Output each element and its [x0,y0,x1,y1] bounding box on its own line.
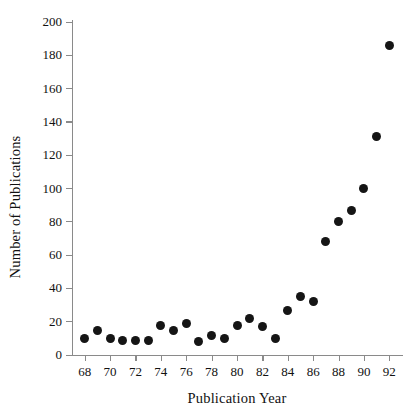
data-point [93,326,102,335]
x-tick-label: 68 [78,364,91,380]
data-point [296,292,305,301]
data-point [194,337,203,346]
y-tick-label: 0 [56,347,63,363]
y-tick-label: 100 [43,181,63,197]
data-point [258,322,267,331]
x-tick-label: 84 [281,364,294,380]
data-point [169,326,178,335]
x-tick-mark [135,355,136,361]
data-point [283,306,292,315]
x-tick-label: 76 [180,364,193,380]
x-tick-label: 72 [129,364,142,380]
data-point [334,217,343,226]
data-point [385,41,394,50]
x-tick-mark [389,355,390,361]
data-point-layer [72,22,402,355]
x-tick-mark [313,355,314,361]
data-point [372,132,381,141]
scatter-chart: Number of Publications 02040608010012014… [0,0,420,414]
x-tick-mark [85,355,86,361]
y-tick-label: 200 [43,14,63,30]
data-point [233,321,242,330]
x-tick-mark [237,355,238,361]
y-tick-label: 180 [43,47,63,63]
x-tick-mark [110,355,111,361]
data-point [106,334,115,343]
data-point [131,336,140,345]
data-point [347,206,356,215]
data-point [271,334,280,343]
y-axis-ticks: 020406080100120140160180200 [0,0,72,414]
x-tick-label: 92 [383,364,396,380]
x-tick-label: 70 [104,364,117,380]
data-point [80,334,89,343]
x-axis-ticks: 68707274767880828486889092 [72,355,402,385]
data-point [359,184,368,193]
plot-area: 68707274767880828486889092 [72,22,402,355]
y-tick-label: 120 [43,147,63,163]
data-point [321,237,330,246]
x-tick-mark [262,355,263,361]
data-point [144,336,153,345]
data-point [182,319,191,328]
x-tick-label: 74 [154,364,167,380]
x-tick-label: 90 [357,364,370,380]
y-tick-label: 80 [49,214,62,230]
x-tick-mark [339,355,340,361]
y-tick-label: 40 [49,280,62,296]
y-tick-label: 60 [49,247,62,263]
x-tick-label: 78 [205,364,218,380]
x-tick-mark [186,355,187,361]
data-point [309,297,318,306]
data-point [118,336,127,345]
x-tick-label: 88 [332,364,345,380]
y-tick-label: 160 [43,81,63,97]
y-tick-label: 20 [49,314,62,330]
x-tick-mark [364,355,365,361]
x-tick-label: 82 [256,364,269,380]
x-tick-mark [288,355,289,361]
data-point [220,334,229,343]
data-point [207,331,216,340]
x-tick-mark [161,355,162,361]
data-point [156,321,165,330]
x-tick-label: 86 [307,364,320,380]
x-tick-label: 80 [231,364,244,380]
data-point [245,314,254,323]
y-tick-label: 140 [43,114,63,130]
x-tick-mark [212,355,213,361]
x-axis-title: Publication Year [72,390,402,407]
